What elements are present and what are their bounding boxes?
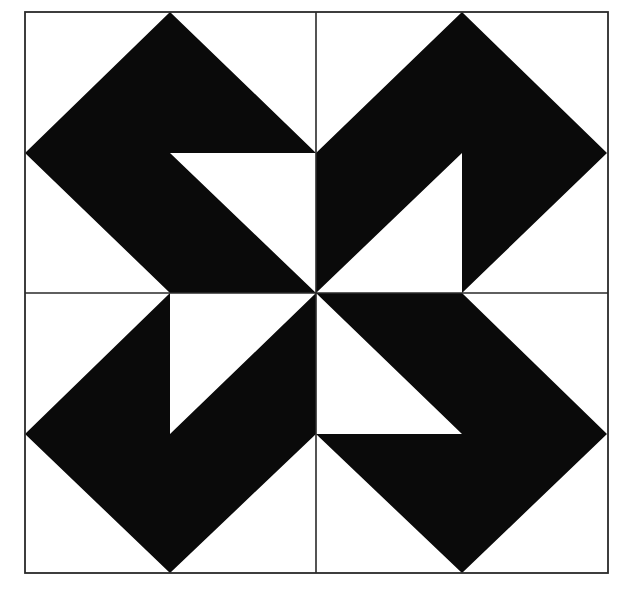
quilt-block-figure <box>0 0 620 592</box>
quilt-block-svg <box>0 0 620 592</box>
